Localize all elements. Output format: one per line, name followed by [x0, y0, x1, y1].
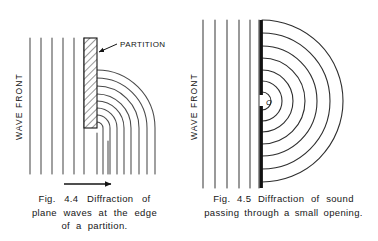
partition-label: PARTITION: [120, 40, 166, 49]
opening-point-label: O: [266, 98, 272, 107]
diffracted-wavefront-arc: [97, 94, 131, 174]
caption-line: of a partition.: [0, 219, 189, 233]
figure-4-5: O WAVE FRONT Fig. 4.5 Diffraction of sou…: [189, 0, 378, 241]
figure-4-4-caption: Fig. 4.4 Diffraction of plane waves at t…: [0, 192, 189, 233]
partition-block: [84, 38, 97, 128]
figure-page: PARTITION WAVE FRONT Fig. 4.4 Diffractio…: [0, 0, 378, 241]
caption-line: plane waves at the edge: [0, 206, 189, 220]
wave-front-label: WAVE FRONT: [189, 73, 199, 140]
caption-line: passing through a small opening.: [189, 206, 378, 220]
barrier-lower-segment: [260, 106, 263, 188]
figure-4-5-caption: Fig. 4.5 Diffraction of sound passing th…: [189, 192, 378, 219]
figure-4-5-artwork: O WAVE FRONT: [189, 0, 378, 190]
diffracted-wavefront-arc: [97, 122, 103, 174]
circular-wavefront-arc: [262, 81, 282, 121]
figure-4-4-artwork: PARTITION WAVE FRONT: [0, 0, 189, 190]
diffracted-wavefront-arc: [97, 108, 117, 174]
wave-front-label: WAVE FRONT: [14, 73, 24, 140]
circular-wavefront-arc: [262, 20, 343, 182]
plane-wavefront-group: [203, 20, 259, 188]
figure-4-4: PARTITION WAVE FRONT Fig. 4.4 Diffractio…: [0, 0, 189, 241]
circular-wavefront-group: [262, 20, 343, 182]
caption-line: Fig. 4.4 Diffraction of: [0, 192, 189, 206]
plane-wavefront-group-upper: [30, 38, 84, 174]
barrier-upper-segment: [260, 20, 263, 95]
circular-wavefront-arc: [262, 33, 330, 169]
caption-line: Fig. 4.5 Diffraction of sound: [189, 192, 378, 206]
partition-leader-line: [99, 44, 117, 52]
barrier-group: [260, 20, 263, 188]
diffracted-wavefront-group: [97, 70, 155, 174]
